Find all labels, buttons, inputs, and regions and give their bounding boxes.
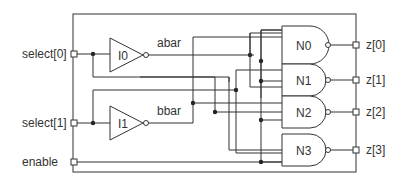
- nand-label-N1: N1: [296, 74, 312, 88]
- nand-gate-N0: N0: [282, 26, 331, 64]
- output-pin-z3[interactable]: [353, 147, 359, 153]
- input-label-select1: select[1]: [22, 116, 67, 130]
- nand-gate-N3: N3: [282, 134, 331, 166]
- input-pin-enable[interactable]: [71, 159, 77, 165]
- output-pin-z0[interactable]: [353, 42, 359, 48]
- input-label-select0: select[0]: [22, 47, 67, 61]
- net-label-bbar: bbar: [157, 104, 181, 118]
- output-label-z3: z[3]: [366, 143, 385, 157]
- output-pin-z1[interactable]: [353, 77, 359, 83]
- inverter-label-I1: I1: [118, 117, 128, 131]
- input-pin-select1[interactable]: [71, 120, 77, 126]
- inverter-label-I0: I0: [118, 49, 128, 63]
- nand-label-N3: N3: [296, 144, 312, 158]
- nand-gate-N2: N2: [282, 96, 331, 128]
- nand-label-N0: N0: [296, 39, 312, 53]
- input-label-enable: enable: [22, 155, 58, 169]
- input-pin-select0[interactable]: [71, 51, 77, 57]
- decoder-schematic: select[0] I0 abar select[1] I1 bbar: [0, 0, 408, 183]
- net-label-abar: abar: [157, 36, 181, 50]
- output-label-z2: z[2]: [366, 105, 385, 119]
- output-label-z1: z[1]: [366, 73, 385, 87]
- output-pin-z2[interactable]: [353, 109, 359, 115]
- nand-label-N2: N2: [296, 106, 312, 120]
- output-label-z0: z[0]: [366, 38, 385, 52]
- nand-gate-N1: N1: [282, 64, 331, 96]
- inverter-I0: I0: [110, 38, 149, 72]
- inverter-I1: I1: [110, 106, 149, 140]
